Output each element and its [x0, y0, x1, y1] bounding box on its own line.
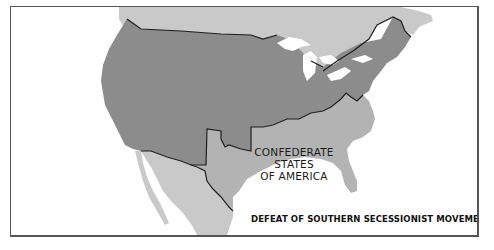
confederacy-label-line2: OF AMERICA	[239, 170, 349, 182]
map-caption: DEFEAT OF SOUTHERN SECESSIONIST MOVEMENT…	[251, 214, 479, 224]
map-canvas	[11, 7, 477, 235]
map-frame: CONFEDERATE STATES OF AMERICA DEFEAT OF …	[10, 6, 479, 237]
confederacy-label: CONFEDERATE STATES OF AMERICA	[239, 146, 349, 182]
confederacy-label-line1: CONFEDERATE STATES	[239, 146, 349, 170]
